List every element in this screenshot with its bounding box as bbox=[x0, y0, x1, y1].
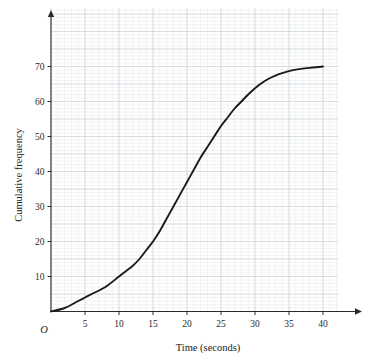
y-tick-label: 60 bbox=[35, 97, 45, 107]
x-tick-label: 20 bbox=[182, 319, 192, 329]
origin-label: O bbox=[40, 324, 48, 335]
x-tick-label: 40 bbox=[318, 319, 328, 329]
x-tick-label: 5 bbox=[83, 319, 88, 329]
x-axis-label: Time (seconds) bbox=[176, 342, 241, 354]
x-tick-label: 25 bbox=[216, 319, 226, 329]
y-tick-label: 10 bbox=[35, 272, 45, 282]
cumulative-frequency-chart: 51015202530354010203040506070 Time (seco… bbox=[0, 0, 367, 358]
y-tick-label: 40 bbox=[35, 167, 45, 177]
x-tick-label: 10 bbox=[114, 319, 124, 329]
y-axis-label: Cumulative frequency bbox=[13, 127, 24, 221]
x-tick-label: 15 bbox=[148, 319, 158, 329]
y-tick-label: 50 bbox=[35, 132, 45, 142]
y-tick-label: 30 bbox=[35, 202, 45, 212]
x-tick-label: 30 bbox=[250, 319, 260, 329]
y-tick-label: 20 bbox=[35, 237, 45, 247]
y-tick-label: 70 bbox=[35, 62, 45, 72]
x-tick-label: 35 bbox=[284, 319, 294, 329]
chart-canvas: 51015202530354010203040506070 Time (seco… bbox=[0, 0, 367, 358]
